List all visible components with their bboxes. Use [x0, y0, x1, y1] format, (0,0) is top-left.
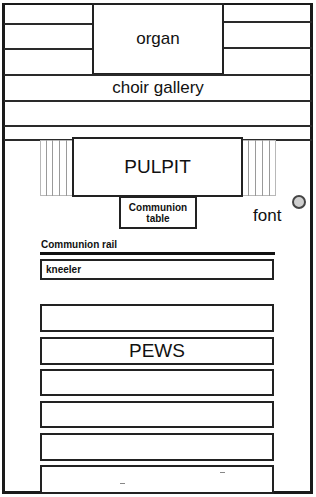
font-basin-icon	[292, 195, 306, 209]
font-label: font	[253, 206, 281, 226]
pew: PEWS	[40, 337, 274, 365]
gallery-line	[4, 100, 312, 102]
pew	[40, 465, 274, 494]
gallery-line	[4, 23, 94, 25]
pew	[40, 401, 274, 428]
communion-table: Communion table	[119, 196, 197, 229]
step-line	[262, 140, 263, 196]
pew	[40, 433, 274, 461]
pew	[40, 369, 274, 396]
gallery-line	[4, 48, 94, 50]
step-line	[248, 140, 249, 196]
gallery-line	[4, 125, 312, 127]
mark	[120, 483, 125, 484]
communion-rail	[40, 252, 275, 255]
choir-gallery: choir gallery	[4, 76, 312, 100]
communion-rail-label: Communion rail	[41, 239, 117, 250]
kneeler: kneeler	[40, 259, 274, 280]
gallery-line	[222, 47, 312, 49]
choir-gallery-label: choir gallery	[112, 78, 204, 98]
step-line	[66, 140, 67, 196]
mark	[220, 472, 225, 473]
step-line	[269, 140, 270, 196]
gallery-line	[222, 21, 312, 23]
pulpit: PULPIT	[72, 137, 243, 197]
pews-label: PEWS	[129, 340, 185, 362]
kneeler-label: kneeler	[46, 264, 81, 275]
pulpit-label: PULPIT	[124, 156, 191, 178]
pew	[40, 304, 274, 332]
step-line	[255, 140, 256, 196]
organ-label: organ	[136, 29, 179, 49]
step-line	[52, 140, 53, 196]
step-line	[46, 140, 47, 196]
organ: organ	[92, 3, 224, 75]
communion-table-label: Communion table	[129, 202, 187, 224]
step-line	[59, 140, 60, 196]
